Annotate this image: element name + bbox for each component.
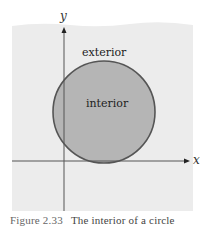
exterior-label: exterior [82, 46, 127, 59]
y-axis-label: y [59, 9, 67, 23]
figure-number: Figure 2.33 [10, 214, 63, 226]
circle-interior [53, 61, 155, 163]
figure-caption: Figure 2.33The interior of a circle [10, 214, 205, 226]
caption-text: The interior of a circle [71, 214, 175, 226]
x-axis-label: x [193, 153, 200, 167]
diagram-canvas: y x exterior interior [0, 0, 205, 226]
circle-interior-figure: y x exterior interior Figure 2.33The int… [0, 0, 205, 226]
interior-label: interior [86, 97, 129, 110]
